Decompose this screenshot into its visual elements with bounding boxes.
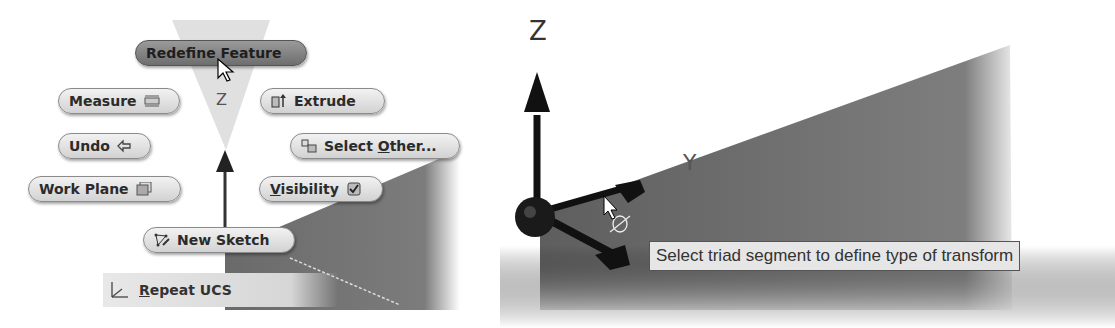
select-other-label: Select Other... (324, 138, 437, 154)
new-sketch-button[interactable]: New Sketch (143, 227, 295, 253)
new-sketch-label: New Sketch (177, 232, 270, 248)
repeat-ucs-label: Repeat UCS (139, 282, 232, 298)
extrude-button[interactable]: Extrude (260, 88, 385, 114)
z-axis-label: Z (529, 16, 547, 46)
sketch-icon (154, 233, 170, 247)
visibility-label: Visibility (270, 181, 339, 197)
mouse-cursor-icon (216, 58, 236, 84)
triad-viewport-panel: Z Y (500, 0, 1115, 328)
checkbox-icon (346, 182, 362, 196)
svg-text:Z: Z (216, 90, 227, 109)
repeat-ucs-menu-item[interactable]: Repeat UCS (103, 273, 338, 307)
undo-button[interactable]: Undo (58, 133, 151, 159)
measure-button[interactable]: Measure (58, 88, 180, 114)
visibility-button[interactable]: Visibility (259, 176, 383, 202)
undo-arrow-icon (117, 139, 133, 153)
undo-label: Undo (69, 138, 110, 154)
work-plane-icon (136, 182, 152, 196)
select-other-icon (301, 139, 317, 153)
model-viewport-right (500, 0, 1115, 328)
ucs-icon (109, 280, 129, 300)
triad-tooltip: Select triad segment to define type of t… (649, 241, 1020, 271)
y-axis-label: Y (683, 150, 696, 175)
work-plane-label: Work Plane (39, 181, 129, 197)
redefine-feature-label: Redefine Feature (146, 45, 282, 61)
extrude-label: Extrude (294, 93, 356, 109)
ruler-icon (144, 94, 160, 108)
select-other-button[interactable]: Select Other... (290, 133, 460, 159)
extrude-icon (271, 94, 287, 108)
work-plane-button[interactable]: Work Plane (28, 176, 181, 202)
marking-menu-panel: Z Redefine Feature Measure Extrude Undo … (0, 0, 470, 328)
measure-label: Measure (69, 93, 137, 109)
